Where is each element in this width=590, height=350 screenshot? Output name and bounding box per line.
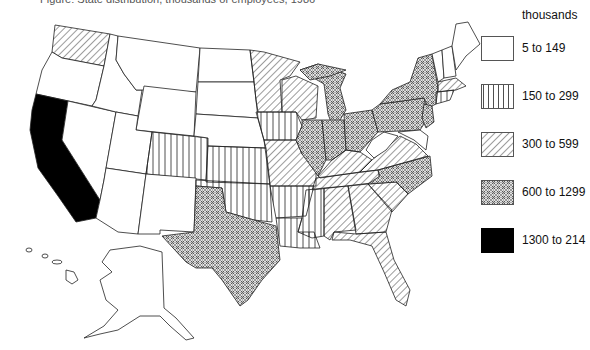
- state-ny: [380, 54, 438, 108]
- legend-item-300-599: 300 to 599: [481, 132, 590, 158]
- state-ia: [256, 112, 302, 140]
- state-ak: [84, 246, 194, 340]
- legend-unit-label: thousands: [522, 8, 577, 22]
- state-ks: [206, 146, 270, 184]
- state-fl: [332, 232, 410, 306]
- state-co: [146, 132, 208, 180]
- legend-label: 300 to 599: [522, 137, 579, 151]
- legend-label: 5 to 149: [522, 41, 565, 55]
- legend-item-150-299: 150 to 299: [481, 84, 590, 110]
- legend-label: 1300 to 214: [522, 233, 585, 247]
- state-wy: [136, 86, 196, 136]
- state-nd: [198, 48, 254, 82]
- state-sd: [196, 82, 258, 118]
- state-nm: [138, 174, 196, 234]
- legend-label: 600 to 1299: [522, 185, 585, 199]
- state-ct: [436, 90, 454, 104]
- legend-item-600-1299: 600 to 1299: [481, 180, 590, 206]
- state-hi: [26, 248, 78, 284]
- state-me: [452, 22, 480, 70]
- legend-item-5-149: 5 to 149: [481, 36, 590, 62]
- legend-label: 150 to 299: [522, 89, 579, 103]
- legend-item-1300-plus: 1300 to 214: [481, 228, 590, 254]
